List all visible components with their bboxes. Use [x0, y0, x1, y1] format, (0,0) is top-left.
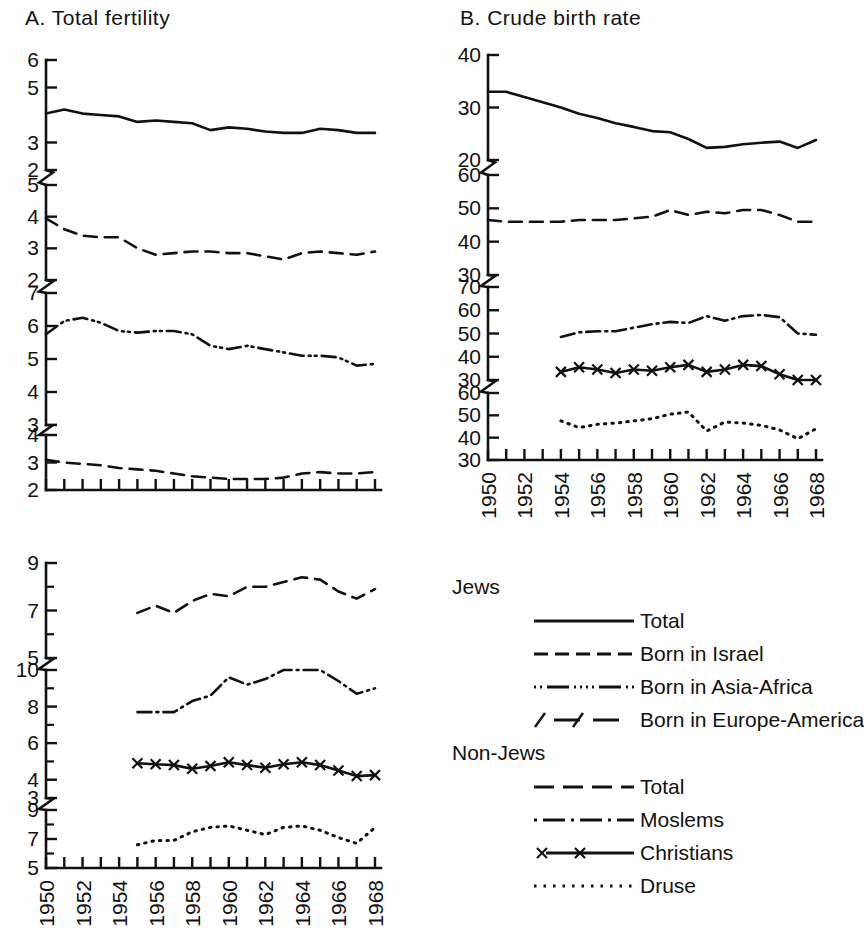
legend-x-marker — [537, 848, 547, 858]
y-tick-label: 40 — [458, 345, 481, 368]
legend-item-born-in-asia-africa[interactable]: Born in Asia-Africa — [528, 675, 813, 699]
x-tick-label: 1950 — [477, 472, 500, 519]
y-tick-label: 4 — [27, 205, 39, 228]
legend-line-sample — [528, 710, 636, 730]
x-tick-label: 1962 — [254, 880, 277, 927]
y-tick-label: 4 — [27, 380, 39, 403]
x-tick-label: 1952 — [72, 880, 95, 927]
y-tick-label: 6 — [27, 314, 39, 337]
y-tick-label: 50 — [458, 403, 481, 426]
x-tick-label: 1958 — [181, 880, 204, 927]
y-tick-label: 40 — [458, 43, 481, 66]
x-tick-label: 1966 — [769, 472, 792, 519]
legend-swatch — [528, 677, 636, 697]
legend-item-label: Total — [640, 775, 684, 799]
y-tick-label: 40 — [458, 230, 481, 253]
y-tick-label: 30 — [458, 448, 481, 471]
axis-break-zigzag — [481, 160, 495, 175]
y-tick-label: 6 — [27, 731, 39, 754]
y-tick-label: 5 — [27, 173, 39, 196]
x-tick-label: 1954 — [108, 880, 131, 927]
series-line — [137, 826, 375, 845]
legend-line-sample — [528, 611, 636, 631]
y-tick-label: 8 — [27, 695, 39, 718]
series-line — [46, 218, 375, 259]
x-tick-label: 1962 — [696, 472, 719, 519]
axis-break-zigzag — [481, 275, 495, 287]
y-tick-label: 7 — [27, 827, 39, 850]
y-tick-label: 60 — [458, 163, 481, 186]
legend-item-total[interactable]: Total — [528, 609, 684, 633]
legend-item-born-in-israel[interactable]: Born in Israel — [528, 642, 764, 666]
panel-c-chart: 9751086439751950195219541956195819601962… — [0, 548, 430, 938]
y-tick-label: 9 — [27, 798, 39, 821]
legend-line-sample — [528, 777, 636, 797]
y-tick-label: 3 — [27, 451, 39, 474]
series-line — [46, 318, 375, 366]
series-line — [561, 315, 816, 337]
axis-break-zigzag — [39, 425, 53, 435]
y-tick-label: 5 — [27, 76, 39, 99]
legend-item-label: Born in Asia-Africa — [640, 675, 813, 699]
y-tick-label: 60 — [458, 381, 481, 404]
x-tick-label: 1964 — [291, 880, 314, 927]
x-tick-label: 1966 — [327, 880, 350, 927]
axis-break-zigzag — [39, 798, 53, 810]
legend-line-sample — [528, 843, 636, 863]
legend-item-christians[interactable]: Christians — [528, 841, 733, 865]
y-tick-label: 7 — [27, 599, 39, 622]
legend-item-moslems[interactable]: Moslems — [528, 808, 724, 832]
x-tick-label: 1960 — [659, 472, 682, 519]
legend-swatch — [528, 810, 636, 830]
legend-item-druse[interactable]: Druse — [528, 874, 696, 898]
legend-item-label: Christians — [640, 841, 733, 865]
y-tick-label: 50 — [458, 196, 481, 219]
legend-item-born-in-europe-america[interactable]: Born in Europe-America — [528, 708, 864, 732]
legend-item-total[interactable]: Total — [528, 775, 684, 799]
x-tick-label: 1968 — [805, 472, 828, 519]
y-tick-label: 6 — [27, 48, 39, 71]
legend-line-sample — [528, 876, 636, 896]
y-tick-label: 2 — [27, 478, 39, 501]
legend-item-label: Moslems — [640, 808, 724, 832]
panel-b-chart: 4030206050403070605040306050403019501952… — [430, 35, 844, 575]
legend-swatch — [528, 876, 636, 896]
legend-item-label: Born in Israel — [640, 642, 764, 666]
legend-swatch — [528, 644, 636, 664]
x-tick-label: 1952 — [513, 472, 536, 519]
series-line — [137, 670, 375, 712]
panel-a-title: A. Total fertility — [25, 6, 170, 30]
x-tick-label: 1960 — [218, 880, 241, 927]
y-tick-label: 60 — [458, 298, 481, 321]
legend-line-sample — [528, 677, 636, 697]
series-line — [46, 110, 375, 133]
legend-swatch — [528, 843, 636, 863]
series-line — [137, 577, 375, 613]
legend-item-label: Druse — [640, 874, 696, 898]
x-tick-label: 1956 — [145, 880, 168, 927]
series-line — [488, 92, 816, 148]
legend-slash-marker — [535, 713, 545, 727]
series-line — [46, 460, 375, 479]
x-tick-label: 1950 — [35, 880, 58, 927]
legend-swatch — [528, 710, 636, 730]
x-tick-label: 1968 — [364, 880, 387, 927]
axis-break-zigzag — [39, 170, 53, 185]
x-tick-label: 1954 — [550, 472, 573, 519]
series-line — [488, 210, 816, 222]
y-tick-label: 5 — [27, 856, 39, 879]
x-tick-label: 1958 — [623, 472, 646, 519]
y-tick-label: 7 — [27, 281, 39, 304]
x-tick-label: 1956 — [586, 472, 609, 519]
y-tick-label: 30 — [458, 96, 481, 119]
panel-b-title: B. Crude birth rate — [460, 6, 641, 30]
legend-group-heading-non-jews: Non-Jews — [452, 741, 545, 765]
legend-line-sample — [528, 810, 636, 830]
y-tick-label: 4 — [27, 423, 39, 446]
axis-break-zigzag — [39, 280, 53, 293]
y-tick-label: 5 — [27, 347, 39, 370]
y-tick-label: 10 — [16, 658, 39, 681]
legend-group-heading-jews: Jews — [452, 575, 500, 599]
legend-line-sample — [528, 644, 636, 664]
legend-item-label: Born in Europe-America — [640, 708, 864, 732]
